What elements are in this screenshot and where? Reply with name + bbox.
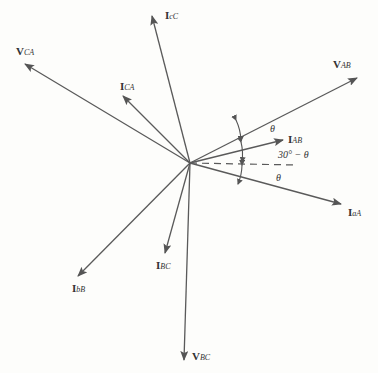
phasor-i-cc [152, 16, 190, 163]
phasor-i-aa [190, 163, 341, 204]
phasor-v-bc [184, 163, 190, 360]
phasor-label-i-bb: IbB [72, 282, 85, 294]
phasor-diagram [0, 0, 378, 373]
angle-label-1: 30° − θ [278, 149, 309, 160]
phasor-i-bb [78, 163, 190, 276]
phasor-label-v-bc: VBC [192, 350, 210, 362]
angle-arc-30-minus-theta [241, 142, 243, 162]
angle-label-0: θ [270, 123, 275, 134]
phasor-label-i-ca: ICA [120, 80, 135, 92]
phasor-v-ab [190, 78, 357, 163]
phasor-label-i-aa: IaA [348, 206, 361, 218]
phasor-label-i-cc: IcC [165, 9, 178, 21]
phasor-v-ca [25, 64, 190, 163]
angle-arc-theta-lower [238, 165, 242, 184]
angle-label-2: θ [276, 172, 281, 183]
phasor-label-v-ca: VCA [16, 45, 34, 57]
reference-dashed-line [190, 163, 296, 165]
phasor-label-i-bc: IBC [156, 259, 171, 271]
phasor-i-ab [190, 140, 283, 163]
phasor-label-i-ab: IAB [288, 133, 302, 145]
phasor-label-v-ab: VAB [333, 58, 351, 70]
